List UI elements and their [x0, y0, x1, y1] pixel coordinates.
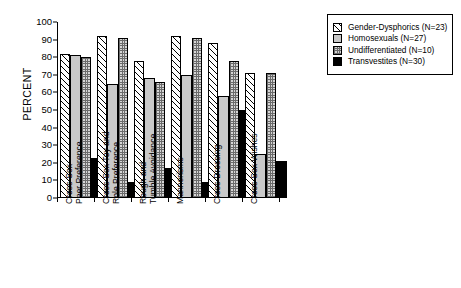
y-tick-mark: [53, 57, 57, 58]
y-tick-mark: [53, 22, 57, 23]
legend-item: Gender-Dysphorics (N=23): [333, 23, 447, 32]
x-tick-mark: [57, 198, 58, 202]
legend-label: Transvestites (N=30): [348, 57, 425, 66]
legend-label: Homosexuals (N=27): [348, 34, 426, 43]
legend-label: Undifferentiated (N=10): [348, 46, 434, 55]
x-tick-mark: [205, 198, 206, 202]
bar: [192, 38, 203, 198]
bar: [266, 73, 277, 198]
legend-swatch-icon: [333, 34, 342, 43]
y-axis-title: PERCENT: [21, 34, 33, 154]
bar-chart-figure: PERCENT 0102030405060708090100 Cross-Sex…: [0, 0, 461, 288]
y-tick-mark: [53, 39, 57, 40]
x-tick-mark: [94, 198, 95, 202]
legend-swatch-icon: [333, 46, 342, 55]
legend-item: Homosexuals (N=27): [333, 34, 447, 43]
x-tick-mark: [131, 198, 132, 202]
x-tick-label: Mannerisms: [176, 118, 186, 204]
legend-swatch-icon: [333, 23, 342, 32]
y-tick-mark: [53, 110, 57, 111]
y-tick-mark: [53, 74, 57, 75]
chart-legend: Gender-Dysphorics (N=23)Homosexuals (N=2…: [327, 14, 453, 75]
y-tick-mark: [53, 162, 57, 163]
y-tick-mark: [53, 145, 57, 146]
y-tick-mark: [53, 127, 57, 128]
x-tick-label: Rough and Tumble Avoidance: [139, 118, 158, 204]
bar: [229, 61, 240, 198]
legend-swatch-icon: [333, 57, 342, 66]
x-tick-label: Cross-Sex Peer Preference: [65, 118, 84, 204]
plot-area: 0102030405060708090100: [57, 22, 279, 198]
x-tick-label: Cross-Sex Toy and Role Preference: [102, 118, 121, 204]
y-tick-mark: [53, 92, 57, 93]
x-tick-mark: [242, 198, 243, 202]
x-tick-mark: [279, 198, 280, 202]
legend-item: Undifferentiated (N=10): [333, 46, 447, 55]
legend-item: Transvestites (N=30): [333, 57, 447, 66]
legend-label: Gender-Dysphorics (N=23): [348, 23, 447, 32]
bar: [276, 161, 287, 198]
y-tick-mark: [53, 180, 57, 181]
x-tick-mark: [168, 198, 169, 202]
x-tick-label: Cross-Dressing: [213, 118, 223, 204]
x-tick-label: Cross-Sex Wishes: [250, 118, 260, 204]
